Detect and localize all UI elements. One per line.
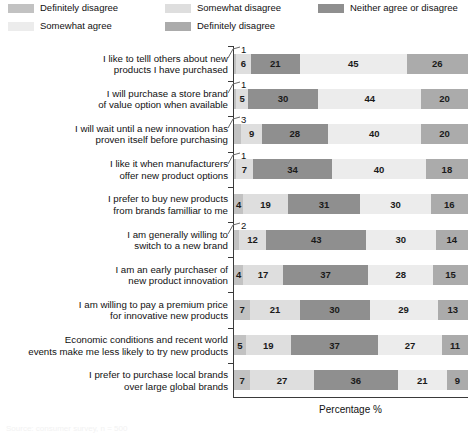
bar-row[interactable]: I am willing to pay a premium pricefor i…	[0, 292, 473, 327]
legend-item-3[interactable]: Somewhat agree	[8, 21, 112, 31]
y-axis-tick	[228, 187, 234, 188]
stacked-bar[interactable]: 5304420	[234, 89, 468, 109]
bar-row-label-line: I will purchase a store brand	[13, 87, 228, 98]
bar-segment[interactable]: 28	[262, 124, 328, 144]
bar-segment[interactable]: 44	[318, 89, 421, 109]
bar-row[interactable]: I like to telll others about newproducts…	[0, 46, 473, 81]
bar-row[interactable]: I will purchase a store brandof value op…	[0, 81, 473, 116]
y-axis-tick	[228, 328, 234, 329]
bar-segment[interactable]: 21	[398, 370, 447, 390]
bar-segment[interactable]: 43	[266, 230, 366, 250]
bar-row-label-line: Economic conditions and recent world	[13, 334, 228, 345]
chart-footnote: Source: consumer survey, n = 500	[6, 424, 306, 433]
bar-segment[interactable]: 7	[234, 370, 250, 390]
bar-segment[interactable]: 20	[421, 124, 468, 144]
legend-swatch-somewhat-disagree	[165, 4, 191, 13]
bar-segment[interactable]: 5	[236, 89, 248, 109]
bar-row-label-line: offer new product options	[13, 169, 228, 180]
bar-row[interactable]: I prefer to buy new productsfrom brands …	[0, 187, 473, 222]
stacked-bar[interactable]: 419313016	[234, 194, 468, 214]
bar-segment[interactable]: 30	[360, 194, 430, 214]
bar-row-label-line: over large global brands	[13, 380, 228, 391]
legend-item-0[interactable]: Definitely disagree	[8, 3, 118, 13]
bar-row-label: I am generally willing toswitch to a new…	[13, 228, 228, 251]
bar-segment[interactable]: 29	[370, 300, 438, 320]
bar-segment[interactable]: 36	[314, 370, 398, 390]
bar-row-label: I like it when manufacturersoffer new pr…	[13, 158, 228, 181]
chart-legend: Definitely disagreeSomewhat disagreeNeit…	[0, 0, 473, 40]
bar-segment[interactable]: 9	[447, 370, 468, 390]
y-axis-tick	[228, 222, 234, 223]
bar-segment[interactable]: 5	[234, 335, 246, 355]
bar-segment[interactable]: 17	[243, 265, 282, 285]
bar-segment[interactable]: 18	[426, 159, 468, 179]
bar-segment[interactable]: 19	[246, 335, 291, 355]
bar-row-label: I prefer to buy new productsfrom brands …	[13, 193, 228, 216]
bar-row-label: Economic conditions and recent worldeven…	[13, 334, 228, 357]
stacked-bar[interactable]: 72736219	[234, 370, 468, 390]
bar-segment[interactable]: 7	[236, 159, 252, 179]
legend-item-2[interactable]: Neither agree or disagree	[318, 3, 458, 13]
bar-segment[interactable]: 30	[248, 89, 318, 109]
bar-segment[interactable]: 40	[332, 159, 426, 179]
bar-row-label-line: from brands familliar to me	[13, 204, 228, 215]
bar-row[interactable]: I prefer to purchase local brandsover la…	[0, 363, 473, 398]
bar-row[interactable]: I am an early purchaser ofnew product in…	[0, 257, 473, 292]
legend-swatch-somewhat-agree	[8, 22, 34, 31]
bar-segment[interactable]: 20	[421, 89, 468, 109]
bar-segment[interactable]: 7	[234, 300, 250, 320]
bar-segment[interactable]: 45	[300, 54, 406, 74]
bar-segment[interactable]: 14	[436, 230, 468, 250]
bar-segment[interactable]: 27	[250, 370, 313, 390]
bar-segment[interactable]: 11	[442, 335, 468, 355]
bar-row-label-line: I like to telll others about new	[13, 52, 228, 63]
legend-item-1[interactable]: Somewhat disagree	[165, 3, 281, 13]
x-axis-title: Percentage %	[233, 404, 468, 415]
bar-segment[interactable]: 30	[300, 300, 370, 320]
bar-segment[interactable]: 37	[283, 265, 369, 285]
bar-row-label-line: for innovative new products	[13, 310, 228, 321]
legend-label-4: Definitely disagree	[197, 21, 275, 31]
bar-segment[interactable]: 13	[438, 300, 468, 320]
bar-segment[interactable]: 6	[236, 54, 250, 74]
bar-segment[interactable]: 21	[250, 300, 299, 320]
segment-leader-value: 1	[241, 150, 246, 161]
bar-segment[interactable]: 28	[368, 265, 433, 285]
bar-segment[interactable]: 15	[433, 265, 468, 285]
bar-row-label-line: new product innovation	[13, 275, 228, 286]
y-axis-tick	[228, 46, 234, 47]
bar-segment[interactable]: 27	[378, 335, 442, 355]
legend-label-1: Somewhat disagree	[197, 3, 281, 13]
bar-row-label-line: I prefer to purchase local brands	[13, 369, 228, 380]
bar-segment[interactable]: 30	[366, 230, 436, 250]
stacked-bar[interactable]: 12433014	[234, 230, 468, 250]
bar-segment[interactable]: 19	[243, 194, 287, 214]
stacked-bar[interactable]: 7344018	[234, 159, 468, 179]
bar-segment[interactable]	[234, 124, 241, 144]
bar-segment[interactable]: 26	[407, 54, 468, 74]
segment-leader-value: 1	[241, 79, 246, 90]
bar-segment[interactable]: 34	[253, 159, 333, 179]
stacked-bar[interactable]: 721302913	[234, 300, 468, 320]
bar-segment[interactable]: 40	[328, 124, 422, 144]
bar-segment[interactable]: 4	[234, 265, 243, 285]
bar-segment[interactable]: 37	[291, 335, 378, 355]
stacked-bar[interactable]: 9284020	[234, 124, 468, 144]
bar-row-label-line: products I have purchased	[13, 64, 228, 75]
stacked-bar[interactable]: 6214526	[234, 54, 468, 74]
bar-row[interactable]: Economic conditions and recent worldeven…	[0, 328, 473, 363]
bar-segment[interactable]: 16	[431, 194, 468, 214]
bar-segment[interactable]: 4	[234, 194, 243, 214]
bar-row[interactable]: I will wait until a new innovation haspr…	[0, 116, 473, 151]
stacked-bar[interactable]: 417372815	[234, 265, 468, 285]
legend-item-4[interactable]: Definitely disagree	[165, 21, 275, 31]
bar-segment[interactable]: 31	[288, 194, 361, 214]
bar-row[interactable]: I like it when manufacturersoffer new pr…	[0, 152, 473, 187]
bar-segment[interactable]: 21	[251, 54, 301, 74]
bar-row[interactable]: I am generally willing toswitch to a new…	[0, 222, 473, 257]
y-axis-tick	[228, 116, 234, 117]
bar-row-label-line: I am an early purchaser of	[13, 263, 228, 274]
bar-segment[interactable]: 12	[239, 230, 267, 250]
bar-segment[interactable]: 9	[241, 124, 262, 144]
stacked-bar[interactable]: 519372711	[234, 335, 468, 355]
